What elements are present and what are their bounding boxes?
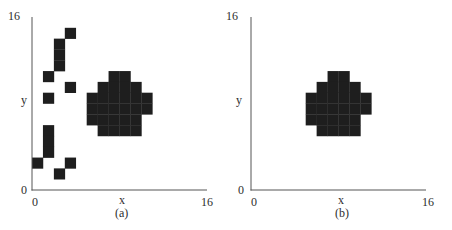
pixel-cell	[109, 125, 120, 136]
pixel-cell	[98, 114, 109, 125]
pixel-cell	[54, 60, 65, 71]
pixel-cell	[98, 82, 109, 93]
pixel-cell	[339, 93, 350, 104]
pixel-cell	[306, 93, 317, 104]
pixel-cell	[87, 114, 98, 125]
pixel-cell	[349, 93, 360, 104]
pixel-cell	[328, 104, 339, 115]
pixel-cell	[120, 93, 131, 104]
pixel-cell	[317, 82, 328, 93]
pixel-cell	[65, 82, 76, 93]
pixel-cell	[87, 104, 98, 115]
cells-layer	[32, 28, 153, 180]
x-axis-label: x	[119, 194, 125, 206]
pixel-cell	[65, 28, 76, 39]
x-axis-label: x	[338, 194, 344, 206]
panel-b: 16 y 0 0 x 16 (b)	[219, 0, 445, 230]
y-axis-max-label: 16	[8, 10, 20, 22]
pixel-cell	[360, 93, 371, 104]
pixel-cell	[98, 93, 109, 104]
pixel-cell	[317, 114, 328, 125]
y-axis-min-label: 0	[21, 184, 27, 196]
pixel-cell	[65, 158, 76, 169]
pixel-cell	[130, 114, 141, 125]
pixel-cell	[339, 114, 350, 125]
pixel-cell	[306, 114, 317, 125]
pixel-cell	[349, 114, 360, 125]
pixel-cell	[339, 82, 350, 93]
pixel-cell	[339, 104, 350, 115]
pixel-cell	[109, 82, 120, 93]
panel-caption: (a)	[115, 207, 128, 219]
pixel-cell	[43, 71, 54, 82]
pixel-cell	[32, 158, 43, 169]
x-axis-min-label: 0	[251, 196, 257, 208]
pixel-cell	[130, 125, 141, 136]
x-axis-max-label: 16	[422, 196, 434, 208]
pixel-cell	[54, 49, 65, 60]
pixel-cell	[328, 93, 339, 104]
x-axis-max-label: 16	[201, 196, 213, 208]
pixel-cell	[109, 114, 120, 125]
pixel-cell	[349, 104, 360, 115]
pixel-cell	[43, 136, 54, 147]
pixel-cell	[328, 71, 339, 82]
pixel-cell	[328, 82, 339, 93]
pixel-cell	[43, 125, 54, 136]
y-axis-label: y	[21, 94, 27, 106]
pixel-cell	[360, 104, 371, 115]
pixel-cell	[317, 104, 328, 115]
x-axis-min-label: 0	[32, 196, 38, 208]
pixel-cell	[109, 104, 120, 115]
pixel-cell	[98, 125, 109, 136]
pixel-cell	[43, 93, 54, 104]
y-axis-min-label: 0	[238, 184, 244, 196]
pixel-cell	[130, 93, 141, 104]
pixel-cell	[306, 104, 317, 115]
pixel-cell	[54, 168, 65, 179]
pixel-cell	[317, 125, 328, 136]
pixel-cell	[87, 93, 98, 104]
pixel-cell	[349, 82, 360, 93]
pixel-cell	[98, 104, 109, 115]
pixel-cell	[141, 93, 152, 104]
pixel-cell	[109, 71, 120, 82]
pixel-cell	[109, 93, 120, 104]
pixel-cell	[349, 125, 360, 136]
pixel-cell	[120, 71, 131, 82]
pixel-cell	[339, 125, 350, 136]
pixel-cell	[120, 125, 131, 136]
y-axis-max-label: 16	[226, 10, 238, 22]
pixel-cell	[54, 39, 65, 50]
pixel-cell	[328, 125, 339, 136]
pixel-cell	[120, 114, 131, 125]
cells-layer	[306, 71, 372, 136]
pixel-cell	[317, 93, 328, 104]
pixel-cell	[328, 114, 339, 125]
pixel-cell	[120, 104, 131, 115]
panel-a: 16 y 0 0 x 16 (a)	[0, 0, 226, 230]
pixel-cell	[130, 82, 141, 93]
panel-caption: (b)	[335, 207, 349, 219]
pixel-cell	[339, 71, 350, 82]
pixel-cell	[141, 104, 152, 115]
pixel-cell	[43, 147, 54, 158]
pixel-cell	[130, 104, 141, 115]
pixel-cell	[120, 82, 131, 93]
y-axis-label: y	[236, 94, 242, 106]
